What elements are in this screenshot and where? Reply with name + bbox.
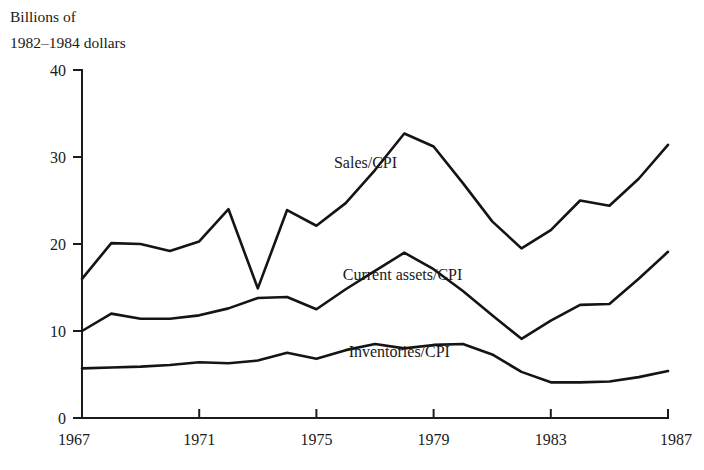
- chart-canvas: Billions of 1982–1984 dollars 010203040 …: [0, 0, 704, 470]
- series-label-inventories-cpi: Inventories/CPI: [349, 343, 450, 360]
- x-tick-label: 1971: [183, 431, 215, 448]
- y-axis-title-line-2: 1982–1984 dollars: [10, 34, 126, 51]
- y-tick-label: 20: [50, 236, 66, 253]
- x-tick-label: 1967: [58, 431, 90, 448]
- x-tick-label: 1975: [300, 431, 332, 448]
- x-tick-label: 1987: [660, 431, 692, 448]
- x-tick-label: 1979: [418, 431, 450, 448]
- series-label-sales-cpi: Sales/CPI: [334, 154, 397, 171]
- y-tick-label: 0: [58, 410, 66, 427]
- chart-background: [0, 0, 704, 470]
- y-tick-label: 10: [50, 323, 66, 340]
- y-axis-title-line-1: Billions of: [10, 8, 77, 25]
- x-tick-label: 1983: [535, 431, 567, 448]
- y-tick-label: 30: [50, 149, 66, 166]
- series-label-current-assets-cpi: Current assets/CPI: [343, 266, 463, 283]
- y-tick-label: 40: [50, 62, 66, 79]
- line-chart-figure: Billions of 1982–1984 dollars 010203040 …: [0, 0, 704, 470]
